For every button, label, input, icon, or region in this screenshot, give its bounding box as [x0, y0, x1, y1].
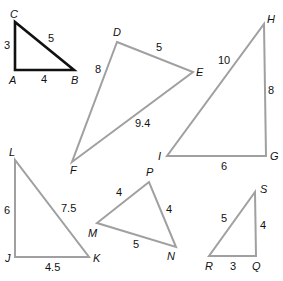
side-hg-label: 8 — [268, 84, 274, 96]
vertex-a-label: A — [8, 74, 16, 86]
vertex-k-label: K — [93, 252, 101, 264]
side-lj-label: 6 — [4, 204, 10, 216]
triangle-mnp: P M N 4 4 5 — [88, 166, 176, 262]
triangle-abc: C A B 3 4 5 — [4, 8, 78, 86]
triangles-diagram: C A B 3 4 5 D E F 5 8 9.4 H G I 10 8 6 L… — [0, 0, 283, 281]
side-mp-label: 4 — [116, 186, 122, 198]
vertex-l-label: L — [9, 146, 15, 158]
vertex-d-label: D — [113, 26, 121, 38]
vertex-p-label: P — [146, 166, 154, 178]
vertex-h-label: H — [267, 13, 275, 25]
side-lk-label: 7.5 — [61, 202, 76, 214]
triangle-jkl-shape — [15, 160, 89, 257]
side-ef-label: 9.4 — [135, 117, 150, 129]
vertex-m-label: M — [88, 227, 98, 239]
vertex-f-label: F — [70, 164, 78, 176]
side-ig-label: 6 — [221, 160, 227, 172]
vertex-j-label: J — [4, 252, 11, 264]
side-ab-label: 4 — [41, 73, 47, 85]
side-jk-label: 4.5 — [45, 261, 60, 273]
side-mn-label: 5 — [133, 238, 139, 250]
side-rq-label: 3 — [230, 260, 236, 272]
side-sq-label: 4 — [260, 219, 266, 231]
side-cb-label: 5 — [48, 32, 54, 44]
triangle-qrs: S Q R 5 4 3 — [205, 183, 268, 272]
triangle-abc-shape — [15, 22, 74, 70]
vertex-e-label: E — [196, 66, 204, 78]
vertex-c-label: C — [10, 8, 18, 20]
vertex-n-label: N — [167, 250, 175, 262]
triangle-ghi: H G I 10 8 6 — [158, 13, 279, 172]
side-rs-label: 5 — [221, 212, 227, 224]
vertex-b-label: B — [71, 74, 78, 86]
triangle-def: D E F 5 8 9.4 — [70, 26, 204, 176]
side-df-label: 8 — [95, 63, 101, 75]
vertex-i-label: I — [158, 150, 161, 162]
triangle-ghi-shape — [167, 24, 266, 156]
side-ca-label: 3 — [4, 39, 10, 51]
triangle-qrs-shape — [209, 192, 256, 256]
vertex-s-label: S — [260, 183, 268, 195]
vertex-r-label: R — [205, 260, 213, 272]
vertex-g-label: G — [270, 150, 279, 162]
side-hi-label: 10 — [218, 54, 230, 66]
vertex-q-label: Q — [252, 260, 261, 272]
side-pn-label: 4 — [166, 203, 172, 215]
triangle-jkl: L J K 6 7.5 4.5 — [4, 146, 101, 273]
side-de-label: 5 — [156, 41, 162, 53]
